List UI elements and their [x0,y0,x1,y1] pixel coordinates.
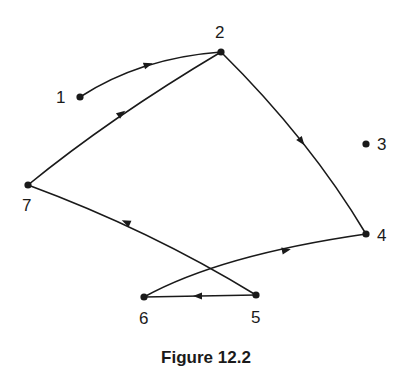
arrow-5-to-6-icon [193,293,202,300]
node-label-7: 7 [22,196,31,215]
edge-5-to-7 [28,185,256,295]
node-label-5: 5 [251,308,260,327]
graph-diagram: 1 2 3 4 5 6 7 Figure 12.2 [0,0,411,372]
figure-caption: Figure 12.2 [161,348,251,367]
node-label-3: 3 [377,135,386,154]
node-label-2: 2 [215,23,224,42]
node-4 [362,230,369,237]
node-label-4: 4 [377,226,386,245]
node-7 [24,181,31,188]
node-label-6: 6 [139,309,148,328]
edge-6-to-4 [144,234,366,297]
edge-7-to-2 [28,52,221,185]
node-label-1: 1 [56,88,65,107]
node-3 [362,140,369,147]
edge-2-to-4 [221,52,366,234]
edge-1-to-2 [80,52,221,97]
node-1 [76,93,83,100]
node-5 [252,291,259,298]
node-2 [217,48,224,55]
node-6 [140,293,147,300]
